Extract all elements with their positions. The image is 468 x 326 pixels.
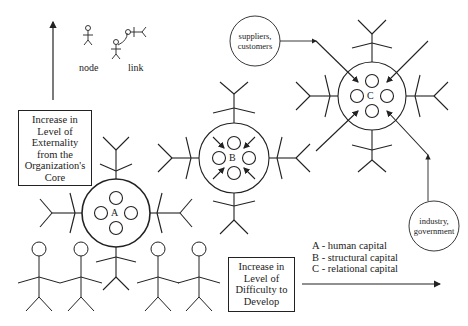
link-legend-label: link xyxy=(128,62,144,73)
key-item-c: C - relational capital xyxy=(312,263,398,275)
cluster-b-label: B xyxy=(229,152,236,163)
node-legend-icon xyxy=(83,26,93,46)
suppliers-customers-label: suppliers, customers xyxy=(230,31,280,51)
stick-people xyxy=(18,242,220,311)
key-item-a: A - human capital xyxy=(312,240,398,252)
link-legend-icon xyxy=(111,27,146,59)
capital-key: A - human capital B - structural capital… xyxy=(312,240,398,275)
industry-government-label: industry, government xyxy=(409,216,459,236)
axis-line: Difficulty to xyxy=(229,284,294,296)
axis-line: Level of xyxy=(19,126,91,138)
axis-line: Core xyxy=(19,172,91,184)
axis-line: Increase in xyxy=(229,261,294,273)
intellectual-capital-diagram: node link Increase in Level of Externali… xyxy=(0,0,468,326)
ext-line: suppliers, xyxy=(230,31,280,41)
axis-line: Increase in xyxy=(19,114,91,126)
ext-line: government xyxy=(409,226,459,236)
key-item-b: B - structural capital xyxy=(312,252,398,264)
ext-line: industry, xyxy=(409,216,459,226)
externality-axis-label: Increase in Level of Externality from th… xyxy=(18,110,92,186)
ext-line: customers xyxy=(230,41,280,51)
axis-line: Externality xyxy=(19,137,91,149)
node-legend-label: node xyxy=(79,62,98,73)
axis-line: Organization's xyxy=(19,160,91,172)
axis-line: from the xyxy=(19,149,91,161)
axis-line: Level of xyxy=(229,273,294,285)
axis-line: Develop xyxy=(229,296,294,308)
cluster-c-label: C xyxy=(367,90,374,101)
difficulty-axis-label: Increase in Level of Difficulty to Devel… xyxy=(228,257,295,312)
cluster-a-label: A xyxy=(111,207,118,218)
